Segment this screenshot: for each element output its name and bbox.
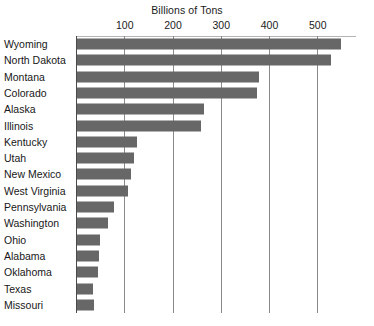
x-tick-label: 500: [309, 19, 327, 31]
category-label: West Virginia: [4, 185, 72, 197]
category-label: Montana: [4, 71, 72, 83]
bar-row[interactable]: Kentucky: [0, 134, 374, 150]
bar-row[interactable]: Wyoming: [0, 36, 374, 52]
bar-row[interactable]: Pennsylvania: [0, 199, 374, 215]
category-label: Alabama: [4, 250, 72, 262]
bar[interactable]: [77, 88, 257, 99]
bar-row[interactable]: Texas: [0, 280, 374, 296]
bar[interactable]: [77, 283, 93, 294]
bar-row[interactable]: Alabama: [0, 248, 374, 264]
bar[interactable]: [77, 234, 100, 245]
category-label: Utah: [4, 152, 72, 164]
bar-rows: WyomingNorth DakotaMontanaColoradoAlaska…: [0, 36, 374, 313]
bar[interactable]: [77, 218, 108, 229]
bar-row[interactable]: Ohio: [0, 232, 374, 248]
bar[interactable]: [77, 267, 98, 278]
bar[interactable]: [77, 39, 341, 50]
category-label: Oklahoma: [4, 266, 72, 278]
x-tick-label: 300: [212, 19, 230, 31]
category-label: Wyoming: [4, 38, 72, 50]
bar-row[interactable]: Oklahoma: [0, 264, 374, 280]
category-label: Colorado: [4, 87, 72, 99]
bar[interactable]: [77, 104, 204, 115]
x-tick-label: 100: [116, 19, 134, 31]
bar[interactable]: [77, 153, 134, 164]
category-label: New Mexico: [4, 168, 72, 180]
bar[interactable]: [77, 185, 128, 196]
x-axis-tick-labels: 100200300400500: [0, 19, 374, 33]
bar-row[interactable]: Utah: [0, 150, 374, 166]
category-label: Missouri: [4, 299, 72, 311]
bar[interactable]: [77, 120, 201, 131]
bar[interactable]: [77, 169, 131, 180]
bar-row[interactable]: West Virginia: [0, 183, 374, 199]
bar-row[interactable]: Alaska: [0, 101, 374, 117]
bar[interactable]: [77, 250, 99, 261]
category-label: Alaska: [4, 103, 72, 115]
bar-row[interactable]: Missouri: [0, 297, 374, 313]
bar[interactable]: [77, 55, 331, 66]
bar-row[interactable]: Washington: [0, 215, 374, 231]
category-label: North Dakota: [4, 54, 72, 66]
bar[interactable]: [77, 136, 137, 147]
bar-row[interactable]: Montana: [0, 69, 374, 85]
coal-reserves-bar-chart: Billions of Tons 100200300400500 Wyoming…: [0, 0, 374, 326]
category-label: Texas: [4, 283, 72, 295]
bar-row[interactable]: North Dakota: [0, 52, 374, 68]
bar[interactable]: [77, 71, 259, 82]
chart-title: Billions of Tons: [0, 4, 374, 16]
category-label: Pennsylvania: [4, 201, 72, 213]
bar[interactable]: [77, 202, 114, 213]
x-tick-label: 400: [261, 19, 279, 31]
bar-row[interactable]: Illinois: [0, 117, 374, 133]
category-label: Kentucky: [4, 136, 72, 148]
bar-row[interactable]: Colorado: [0, 85, 374, 101]
bar[interactable]: [77, 299, 94, 310]
category-label: Illinois: [4, 120, 72, 132]
x-tick-label: 200: [164, 19, 182, 31]
bar-row[interactable]: New Mexico: [0, 166, 374, 182]
category-label: Washington: [4, 217, 72, 229]
category-label: Ohio: [4, 234, 72, 246]
